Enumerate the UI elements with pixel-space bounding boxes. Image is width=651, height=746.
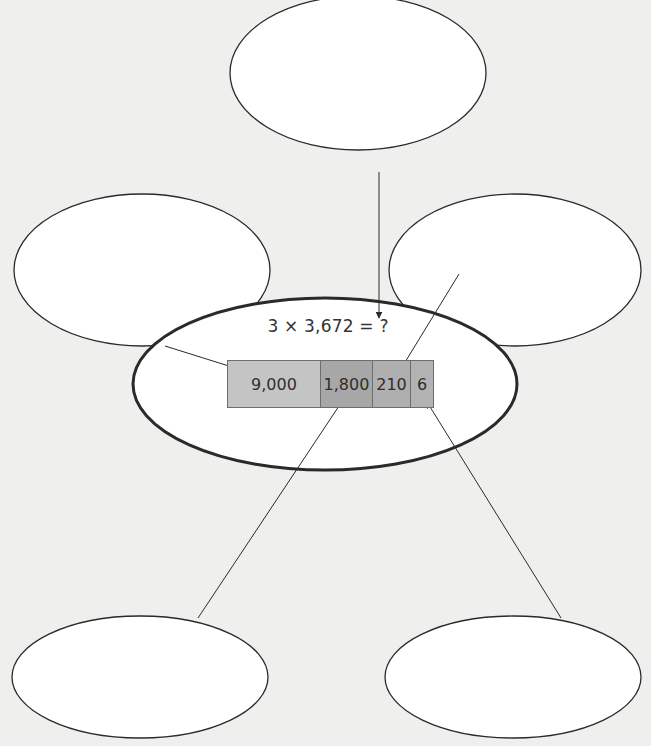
partial-product-210: 210 [373,361,411,407]
bubble-lower-left [12,616,268,738]
arrow-lower-right-to-6 [427,402,561,618]
equation-text: 3 × 3,672 = ? [228,316,428,336]
partial-product-1800: 1,800 [321,361,373,407]
bubble-top [230,0,486,150]
partial-product-9000: 9,000 [228,361,321,407]
partial-products-bar: 9,000 1,800 210 6 [227,360,434,408]
bubble-lower-right [385,616,641,738]
partial-product-6: 6 [411,361,433,407]
